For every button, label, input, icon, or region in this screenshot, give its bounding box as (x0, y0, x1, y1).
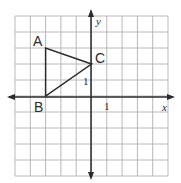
x-axis-label: x (161, 101, 167, 113)
x-tick-label: 1 (104, 100, 110, 112)
triangle-abc (46, 48, 92, 96)
y-axis-up-arrow-icon (88, 9, 94, 17)
x-axis-right-arrow-icon (167, 94, 175, 100)
point-a-label: A (33, 33, 43, 49)
coordinate-plane: y x 1 1 A B C (0, 0, 181, 183)
x-axis-left-arrow-icon (7, 94, 15, 100)
point-b-label: B (34, 99, 43, 115)
y-tick-label: 1 (83, 75, 89, 87)
y-axis (88, 9, 94, 180)
y-axis-label: y (95, 15, 101, 27)
point-c-label: C (95, 50, 105, 66)
